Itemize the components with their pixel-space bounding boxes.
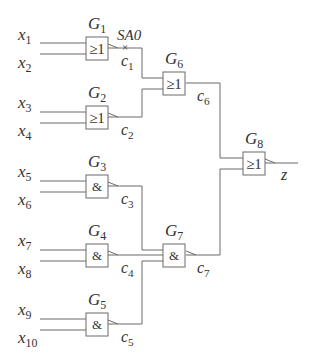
gate-g7: &G7 bbox=[163, 221, 185, 267]
input-label-x6-sub: 6 bbox=[26, 198, 32, 212]
signal-label-c5-base: c bbox=[121, 328, 128, 345]
gate-label-g5-sub: 5 bbox=[100, 298, 106, 312]
signal-label-c3: c3 bbox=[121, 190, 134, 210]
fault-marker-icon: × bbox=[122, 41, 128, 53]
gate-label-g7: G7 bbox=[165, 221, 183, 243]
gate-label-g4-base: G bbox=[88, 221, 100, 240]
signal-label-c1-sub: 1 bbox=[128, 60, 134, 72]
gate-label-g2-base: G bbox=[88, 83, 100, 102]
circuit-diagram: ≥1G1≥1G2&G3&G4&G5≥1G6&G7≥1G8 x1x2x3x4x5x… bbox=[0, 0, 314, 361]
signal-label-c2-base: c bbox=[121, 121, 128, 138]
gate-g6: ≥1G6 bbox=[163, 49, 185, 95]
gate-g5: &G5 bbox=[86, 290, 108, 336]
output-label-z: z bbox=[280, 166, 288, 183]
signal-label-c5-sub: 5 bbox=[128, 336, 134, 348]
gate-label-g5: G5 bbox=[88, 290, 106, 312]
input-label-x9-sub: 9 bbox=[26, 308, 32, 322]
gate-label-g1: G1 bbox=[88, 14, 106, 36]
gate-label-g8-sub: 8 bbox=[257, 137, 263, 151]
input-label-x5: x5 bbox=[17, 162, 32, 184]
input-label-x3-sub: 3 bbox=[26, 101, 32, 115]
signal-label-c4: c4 bbox=[121, 259, 134, 279]
input-label-x1-sub: 1 bbox=[26, 33, 32, 47]
signal-label-c7-base: c bbox=[197, 259, 204, 276]
gate-label-g2: G2 bbox=[88, 83, 106, 105]
gate-g4: &G4 bbox=[86, 221, 108, 267]
signal-label-c7: c7 bbox=[197, 259, 210, 279]
gates: ≥1G1≥1G2&G3&G4&G5≥1G6&G7≥1G8 bbox=[86, 14, 265, 336]
signal-label-c6-sub: 6 bbox=[204, 95, 210, 107]
gate-g3: &G3 bbox=[86, 152, 108, 198]
and-symbol: & bbox=[92, 317, 102, 332]
input-label-x3: x3 bbox=[17, 93, 32, 115]
input-label-x10-sub: 10 bbox=[26, 336, 38, 350]
and-symbol: & bbox=[92, 248, 102, 263]
or-symbol: ≥1 bbox=[89, 110, 105, 126]
labels: x1x2x3x4x5x6x7x8x9x10c1c2c3c4c5c6c7zSA0× bbox=[17, 25, 288, 350]
or-symbol: ≥1 bbox=[166, 76, 182, 92]
input-label-x2: x2 bbox=[17, 53, 32, 75]
input-label-x9: x9 bbox=[17, 300, 32, 322]
input-label-x7: x7 bbox=[17, 231, 32, 253]
input-label-x1: x1 bbox=[17, 25, 32, 47]
gate-label-g8-base: G bbox=[245, 129, 257, 148]
gate-label-g6-sub: 6 bbox=[177, 57, 183, 71]
input-label-x7-sub: 7 bbox=[26, 239, 32, 253]
signal-label-c1: c1 bbox=[121, 52, 134, 72]
signal-label-c1-base: c bbox=[121, 52, 128, 69]
gate-label-g7-sub: 7 bbox=[177, 229, 183, 243]
fault-label-sa0: SA0 bbox=[117, 27, 142, 43]
gate-label-g3: G3 bbox=[88, 152, 106, 174]
gate-label-g4-sub: 4 bbox=[100, 229, 106, 243]
gate-g2: ≥1G2 bbox=[86, 83, 108, 129]
signal-label-c6: c6 bbox=[197, 87, 210, 107]
and-symbol: & bbox=[92, 179, 102, 194]
gate-label-g6-base: G bbox=[165, 49, 177, 68]
input-label-x8-sub: 8 bbox=[26, 267, 32, 281]
gate-label-g2-sub: 2 bbox=[100, 91, 106, 105]
and-symbol: & bbox=[169, 248, 179, 263]
input-label-x4: x4 bbox=[17, 121, 32, 143]
signal-label-c4-base: c bbox=[121, 259, 128, 276]
signal-label-c3-sub: 3 bbox=[128, 198, 134, 210]
or-symbol: ≥1 bbox=[246, 156, 262, 172]
or-symbol: ≥1 bbox=[89, 41, 105, 57]
signal-label-c7-sub: 7 bbox=[204, 267, 210, 279]
input-label-x5-sub: 5 bbox=[26, 170, 32, 184]
signal-label-c2-sub: 2 bbox=[128, 129, 134, 141]
signal-label-c2: c2 bbox=[121, 121, 134, 141]
signal-label-c5: c5 bbox=[121, 328, 134, 348]
gate-label-g1-base: G bbox=[88, 14, 100, 33]
gate-g1: ≥1G1 bbox=[86, 14, 108, 60]
gate-label-g3-base: G bbox=[88, 152, 100, 171]
signal-label-c4-sub: 4 bbox=[128, 267, 134, 279]
input-label-x4-sub: 4 bbox=[26, 129, 32, 143]
gate-label-g6: G6 bbox=[165, 49, 183, 71]
input-label-x10: x10 bbox=[17, 328, 37, 350]
gate-label-g8: G8 bbox=[245, 129, 263, 151]
gate-label-g4: G4 bbox=[88, 221, 106, 243]
input-label-x6: x6 bbox=[17, 190, 32, 212]
gate-label-g1-sub: 1 bbox=[100, 22, 106, 36]
input-label-x2-sub: 2 bbox=[26, 61, 32, 75]
gate-g8: ≥1G8 bbox=[243, 129, 265, 175]
signal-label-c3-base: c bbox=[121, 190, 128, 207]
gate-label-g7-base: G bbox=[165, 221, 177, 240]
gate-label-g5-base: G bbox=[88, 290, 100, 309]
gate-label-g3-sub: 3 bbox=[100, 160, 106, 174]
input-label-x8: x8 bbox=[17, 259, 32, 281]
signal-label-c6-base: c bbox=[197, 87, 204, 104]
